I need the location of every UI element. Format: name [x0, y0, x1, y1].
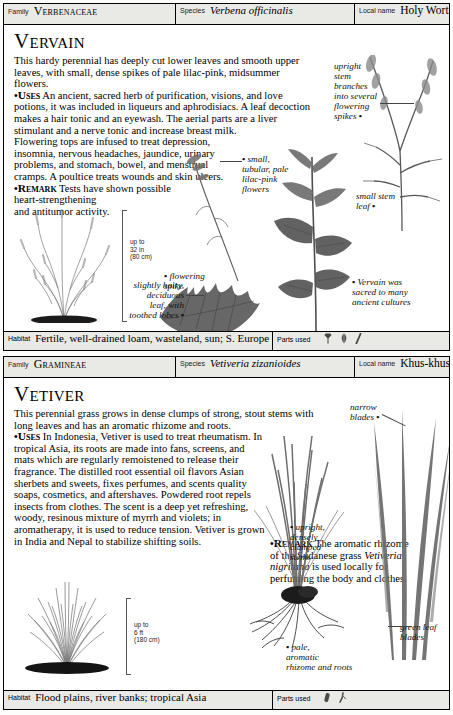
- uses-text: An ancient, sacred herb of purification,…: [14, 90, 310, 136]
- remark-text: Tests have shown possible: [57, 183, 171, 194]
- annotation-dot: •: [352, 277, 355, 287]
- annotation-dot: •: [242, 154, 245, 164]
- vervain-intro: This hardy perennial has deeply cut lowe…: [14, 55, 314, 90]
- scale-prefix: up to: [134, 621, 160, 629]
- species-field: Species Verbena officinalis: [175, 4, 354, 24]
- vervain-scale-caption: up to 32 in (80 cm): [130, 238, 152, 261]
- species-value: Verbena officinalis: [210, 4, 293, 16]
- vervain-spike-illustration: [180, 133, 250, 283]
- scale-imperial: 32 in: [130, 246, 152, 254]
- clumped-stems-annotation: • upright,denselyclumpedstems: [290, 522, 346, 562]
- habitat-field: Habitat Flood plains, river banks; tropi…: [4, 691, 272, 710]
- parts-used-label: Parts used: [277, 695, 310, 702]
- upright-stem-annotation: uprightstembranchesinto severalflowering…: [334, 61, 394, 121]
- scale-metric: (180 cm): [134, 636, 160, 644]
- vetiver-blades-illustration: [368, 382, 449, 662]
- scale-imperial: 6 ft: [134, 629, 160, 637]
- habitat-label: Habitat: [8, 335, 30, 342]
- leaf-icon: [340, 333, 348, 344]
- habitat-value: Flood plains, river banks; tropical Asia: [35, 691, 206, 703]
- parts-used-icons: [323, 333, 362, 344]
- culture-annotation: • Vervain wassacred to manyancient cultu…: [352, 277, 444, 307]
- annotation-dot: •: [181, 310, 184, 320]
- entry-body-vetiver: Vetiver This perennial grass grows in de…: [4, 378, 449, 690]
- leader-line-upright-stem: [380, 103, 414, 104]
- annotation-dot: •: [290, 522, 293, 532]
- entry-footer-vetiver: Habitat Flood plains, river banks; tropi…: [4, 690, 449, 710]
- parts-used-field: Parts used: [272, 332, 449, 351]
- small-stem-leaf-annotation: small stemleaf •: [356, 191, 412, 211]
- vervain-uses: •Uses An ancient, sacred herb of purific…: [14, 90, 314, 136]
- annotation-dot: •: [286, 642, 289, 652]
- entry-header-vervain: Family Verbenaceae Species Verbena offic…: [4, 4, 449, 25]
- vetiver-habit-illustration: [12, 558, 122, 676]
- parts-used-label: Parts used: [277, 336, 310, 343]
- vetiver-scale-bar: [126, 598, 131, 675]
- family-field: Family Gramineae: [4, 357, 175, 377]
- root-icon: [338, 692, 346, 703]
- stem-icon: [355, 333, 362, 344]
- parts-used-field: Parts used: [272, 691, 449, 710]
- family-field: Family Verbenaceae: [4, 4, 175, 24]
- entry-footer-vervain: Habitat Fertile, well-drained loam, wast…: [4, 331, 449, 351]
- herb-entry-vervain: Family Verbenaceae Species Verbena offic…: [3, 3, 450, 351]
- uses-label: Uses: [18, 89, 40, 101]
- leaf-annotation: slightly hairy,deciduousleaf, withtoothe…: [100, 280, 184, 320]
- family-value: Gramineae: [34, 357, 87, 372]
- local-name-label: Local name: [359, 360, 395, 367]
- remark-label: Remark: [18, 182, 57, 194]
- leader-line-leaf: [186, 295, 204, 296]
- flower-icon: [323, 333, 333, 344]
- annotation-dot: •: [376, 412, 379, 422]
- family-label: Family: [8, 8, 29, 15]
- herb-reference-page: Family Verbenaceae Species Verbena offic…: [0, 0, 453, 715]
- entry-body-vervain: Vervain This hardy perennial has deeply …: [4, 25, 449, 331]
- leader-line-green-blades: [388, 626, 412, 627]
- local-name-label: Local name: [359, 7, 395, 14]
- herb-entry-vetiver: Family Gramineae Species Vetiveria zizan…: [3, 356, 450, 710]
- rhizome-annotation: • pale,aromaticrhizome and roots: [286, 642, 376, 672]
- vervain-remark-2: heart-strengthening: [14, 194, 174, 206]
- habitat-label: Habitat: [8, 694, 30, 701]
- local-name-field: Local name Khus-khus: [354, 357, 449, 377]
- parts-used-icons: [323, 692, 346, 703]
- family-value: Verbenaceae: [34, 4, 98, 19]
- vetiver-scale-caption: up to 6 ft (180 cm): [134, 621, 160, 644]
- scale-prefix: up to: [130, 238, 152, 246]
- local-name-value: Khus-khus: [400, 357, 449, 369]
- local-name-field: Local name Holy Wort: [354, 4, 449, 24]
- local-name-value: Holy Wort: [400, 4, 448, 16]
- annotation-dot: •: [372, 201, 375, 211]
- habitat-field: Habitat Fertile, well-drained loam, wast…: [4, 332, 272, 351]
- green-leaf-blades-annotation: green leafblades: [400, 622, 449, 642]
- species-field: Species Vetiveria zizanioides: [175, 357, 354, 377]
- family-label: Family: [8, 361, 29, 368]
- leader-line-flower: [220, 161, 242, 162]
- page-title-vervain: Vervain: [14, 31, 449, 52]
- species-label: Species: [180, 360, 205, 367]
- habitat-value: Fertile, well-drained loam, wasteland, s…: [35, 332, 269, 344]
- annotation-dot: •: [359, 111, 362, 121]
- species-value: Vetiveria zizanioides: [210, 357, 301, 369]
- scale-metric: (80 cm): [130, 253, 152, 261]
- rhizome-icon: [323, 692, 331, 703]
- uses-label: Uses: [18, 430, 40, 442]
- flower-annotation: • small,tubular, palelilac-pinkflowers: [242, 154, 304, 194]
- species-label: Species: [180, 7, 205, 14]
- entry-header-vetiver: Family Gramineae Species Vetiveria zizan…: [4, 357, 449, 378]
